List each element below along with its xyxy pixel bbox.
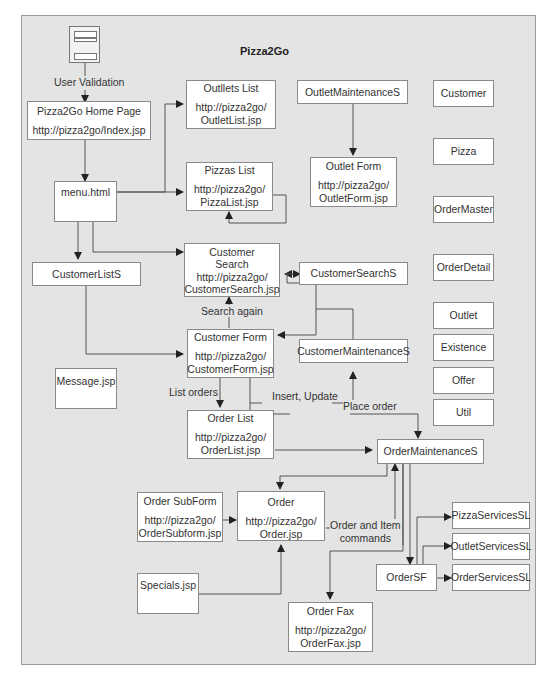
pizzas-list-box: Pizzas Listhttp://pizza2go/ PizzaList.js…: [186, 162, 273, 211]
entity-ordermaster: OrderMaster: [433, 196, 494, 223]
server-icon: [69, 26, 100, 63]
entity-outlet: Outlet: [433, 302, 494, 329]
entity-util: Util: [433, 399, 494, 426]
entity-pizza: Pizza: [433, 138, 494, 165]
pizza-services-box: PizzaServicesSL: [452, 502, 530, 529]
user-validation-label: User Validation: [53, 76, 125, 88]
order-fax-box: Order Faxhttp://pizza2go/ OrderFax.jsp: [288, 602, 373, 652]
customer-maintenance-box: CustomerMaintenanceS: [299, 339, 408, 363]
entity-existence: Existence: [433, 334, 494, 361]
home-page-box: Pizza2Go Home Pagehttp://pizza2go/Index.…: [27, 101, 151, 140]
insert-update-label: Insert, Update: [272, 390, 338, 402]
order-box: Orderhttp://pizza2go/ Order.jsp: [237, 491, 325, 541]
order-sf-box: OrderSF: [376, 564, 437, 591]
customer-search-box: Customer Searchhttp://pizza2go/ Customer…: [184, 243, 280, 297]
entity-offer: Offer: [433, 367, 494, 394]
order-maintenance-box: OrderMaintenanceS: [377, 439, 484, 464]
outlet-services-box: OutletServicesSL: [452, 533, 530, 560]
message-box: Message.jsp: [55, 368, 117, 409]
order-subform-box: Order SubFormhttp://pizza2go/ OrderSubfo…: [137, 492, 223, 542]
outlets-list-box: Outllets Listhttp://pizza2go/ OutletList…: [186, 80, 276, 129]
diagram-title: Pizza2Go: [240, 45, 289, 57]
customer-lists-box: CustomerListS: [32, 262, 141, 286]
order-services-box: OrderServicesSL: [452, 564, 530, 591]
customer-search-s-box: CustomerSearchS: [299, 262, 408, 285]
outlet-maintenance-box: OutletMaintenanceS: [297, 80, 408, 104]
customer-form-box: Customer Formhttp://pizza2go/ CustomerFo…: [187, 329, 274, 378]
search-again-label: Search again: [201, 305, 263, 317]
entity-customer: Customer: [433, 80, 494, 107]
menu-box: menu.html: [54, 181, 117, 222]
outlet-form-box: Outlet Formhttp://pizza2go/ OutletForm.j…: [310, 157, 397, 207]
list-orders-label: List orders: [169, 386, 218, 398]
entity-orderdetail: OrderDetail: [433, 254, 494, 281]
place-order-label: Place order: [343, 400, 397, 412]
order-item-commands-label: Order and Item commands: [330, 519, 401, 545]
order-list-box: Order Listhttp://pizza2go/ OrderList.jsp: [187, 410, 274, 459]
specials-box: Specials.jsp: [137, 573, 199, 614]
